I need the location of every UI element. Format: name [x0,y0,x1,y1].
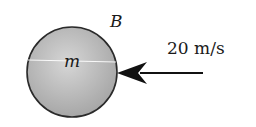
velocity-label: 20 m/s [167,38,225,58]
velocity-arrow-icon [117,62,203,84]
diagram-canvas: m B 20 m/s [0,0,256,127]
sphere-body [27,27,117,117]
body-label: B [109,11,123,31]
mass-label: m [64,51,80,71]
sphere-b [27,27,117,117]
